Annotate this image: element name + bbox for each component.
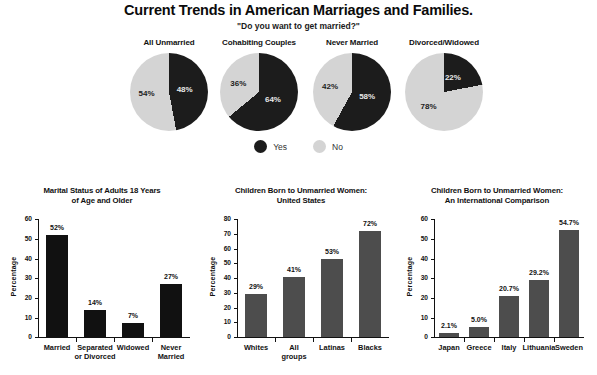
pie-slices bbox=[405, 53, 483, 131]
y-tick bbox=[234, 249, 237, 250]
pie-chart: 58%42% bbox=[313, 53, 391, 131]
pie-header: All Unmarried bbox=[117, 38, 221, 47]
y-tick bbox=[35, 278, 38, 279]
x-category-label: Blacks bbox=[347, 343, 393, 352]
y-tick-label: 10 bbox=[211, 318, 231, 325]
bar bbox=[359, 231, 381, 337]
y-tick bbox=[234, 322, 237, 323]
x-category-line: groups bbox=[271, 352, 317, 361]
y-tick bbox=[431, 239, 434, 240]
legend-swatch-no bbox=[313, 140, 326, 153]
x-category-line: Married bbox=[148, 352, 194, 361]
y-axis-line bbox=[237, 219, 238, 337]
bar-value-label: 72% bbox=[352, 220, 388, 227]
y-tick-label: 60 bbox=[211, 245, 231, 252]
pie-header: Divorced/Widowed bbox=[392, 38, 496, 47]
y-tick bbox=[35, 259, 38, 260]
bar bbox=[499, 296, 519, 337]
x-category-separator bbox=[114, 338, 115, 342]
x-category-line: or Divorced bbox=[72, 352, 118, 361]
y-tick-label: 80 bbox=[211, 215, 231, 222]
x-category-separator bbox=[524, 338, 525, 342]
pie-label-no: 78% bbox=[421, 102, 437, 111]
bar bbox=[529, 280, 549, 337]
chart-title-line: Marital Status of Adults 18 Years bbox=[4, 186, 200, 196]
pie-chart: 48%54% bbox=[130, 53, 208, 131]
bar bbox=[321, 259, 343, 337]
bar-value-label: 20.7% bbox=[491, 285, 527, 292]
bar-chart-children-unmarried-international: Children Born to Unmarried Women:An Inte… bbox=[400, 186, 594, 359]
plot-area: Percentage010203040506052%Married14%Sepa… bbox=[4, 205, 200, 359]
bar-value-label: 7% bbox=[115, 312, 151, 319]
pie-block-3: Divorced/Widowed22%78% bbox=[392, 38, 496, 131]
y-tick bbox=[234, 219, 237, 220]
bar bbox=[469, 327, 489, 337]
x-category-separator bbox=[76, 338, 77, 342]
y-tick-label: 40 bbox=[408, 255, 428, 262]
y-tick-label: 20 bbox=[408, 294, 428, 301]
bar bbox=[160, 284, 182, 337]
chart-title-line: of Age and Older bbox=[4, 196, 200, 206]
chart-title-line: Children Born to Unmarried Women: bbox=[203, 186, 399, 196]
page-subtitle: "Do you want to get married?" bbox=[0, 21, 597, 31]
page-title: Current Trends in American Marriages and… bbox=[0, 2, 597, 18]
y-tick bbox=[431, 298, 434, 299]
bar-value-label: 14% bbox=[77, 299, 113, 306]
bar bbox=[439, 333, 459, 337]
y-tick bbox=[35, 219, 38, 220]
pie-chart: 22%78% bbox=[405, 53, 483, 131]
y-tick bbox=[431, 318, 434, 319]
y-tick bbox=[35, 337, 38, 338]
y-tick bbox=[431, 259, 434, 260]
legend-swatch-yes bbox=[254, 140, 267, 153]
y-tick-label: 70 bbox=[211, 230, 231, 237]
pie-block-0: All Unmarried48%54% bbox=[117, 38, 221, 131]
chart-title-line: Children Born to Unmarried Women: bbox=[400, 186, 594, 196]
bar-value-label: 29% bbox=[238, 283, 274, 290]
y-tick bbox=[35, 239, 38, 240]
bar bbox=[84, 310, 106, 338]
bar bbox=[559, 230, 579, 338]
x-axis-line bbox=[434, 337, 584, 338]
legend-item-yes: Yes bbox=[254, 140, 287, 153]
y-tick-label: 20 bbox=[12, 294, 32, 301]
bar bbox=[122, 323, 144, 337]
chart-title: Children Born to Unmarried Women:United … bbox=[203, 186, 399, 205]
bar-value-label: 52% bbox=[39, 224, 75, 231]
y-tick-label: 10 bbox=[12, 314, 32, 321]
y-tick-label: 50 bbox=[12, 235, 32, 242]
bar-value-label: 29.2% bbox=[521, 269, 557, 276]
y-tick bbox=[431, 219, 434, 220]
y-tick-label: 40 bbox=[12, 255, 32, 262]
chart-title: Children Born to Unmarried Women:An Inte… bbox=[400, 186, 594, 205]
y-tick-label: 40 bbox=[211, 274, 231, 281]
y-tick bbox=[234, 234, 237, 235]
infographic-root: Current Trends in American Marriages and… bbox=[0, 0, 597, 375]
bar-chart-marital-status: Marital Status of Adults 18 Yearsof Age … bbox=[4, 186, 200, 359]
y-tick bbox=[35, 298, 38, 299]
y-tick-label: 0 bbox=[12, 333, 32, 340]
pie-slices bbox=[220, 53, 298, 131]
chart-title: Marital Status of Adults 18 Yearsof Age … bbox=[4, 186, 200, 205]
bar-value-label: 53% bbox=[314, 248, 350, 255]
x-category-label: Sweden bbox=[550, 343, 588, 352]
bar-value-label: 41% bbox=[276, 266, 312, 273]
bar-value-label: 27% bbox=[153, 273, 189, 280]
bar bbox=[283, 277, 305, 337]
pie-label-yes: 22% bbox=[445, 73, 461, 82]
pie-label-no: 42% bbox=[322, 82, 338, 91]
pie-chart: 64%36% bbox=[220, 53, 298, 131]
y-tick-label: 0 bbox=[408, 333, 428, 340]
chart-title-line: An International Comparison bbox=[400, 196, 594, 206]
y-tick bbox=[234, 263, 237, 264]
x-category-line: Sweden bbox=[550, 343, 588, 352]
plot-area: Percentage0102030405060708029%Whites41%A… bbox=[203, 205, 399, 359]
legend-label: No bbox=[332, 142, 343, 152]
y-tick bbox=[234, 278, 237, 279]
pie-block-1: Cohabiting Couples64%36% bbox=[207, 38, 311, 131]
y-tick-label: 20 bbox=[211, 304, 231, 311]
pie-label-yes: 48% bbox=[177, 85, 193, 94]
pie-block-2: Never Married58%42% bbox=[300, 38, 404, 131]
bar-value-label: 54.7% bbox=[551, 219, 587, 226]
y-tick bbox=[431, 337, 434, 338]
